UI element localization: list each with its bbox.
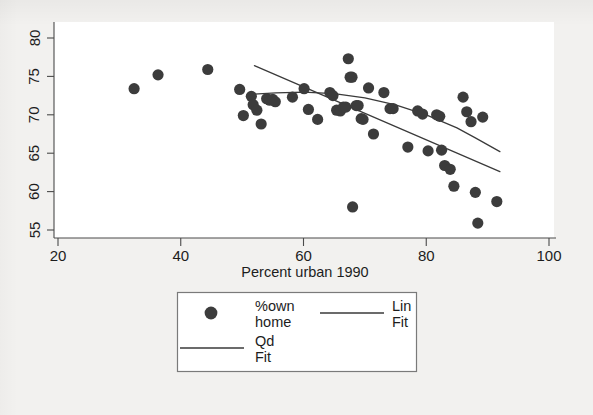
scatter-point	[129, 83, 140, 94]
scatter-point	[477, 112, 488, 123]
x-tick-label: 60	[295, 247, 312, 264]
scatter-point	[402, 141, 413, 152]
y-tick-label: 70	[26, 106, 43, 123]
scatter-point	[461, 106, 472, 117]
x-tick-label: 80	[418, 247, 435, 264]
scatter-point	[353, 100, 364, 111]
legend-label-lin-fit-line1: Lin	[392, 298, 411, 314]
y-tick-label: 65	[26, 145, 43, 162]
scatter-point	[270, 96, 281, 107]
legend-label-qd-fit-line1: Qd	[255, 333, 274, 349]
scatter-point	[457, 92, 468, 103]
scatter-point	[287, 92, 298, 103]
plot-area-background	[54, 22, 554, 238]
legend-label-qd-fit-line2: Fit	[255, 349, 271, 365]
scatter-point	[448, 181, 459, 192]
x-tick-label: 20	[50, 247, 67, 264]
y-tick-label: 60	[26, 183, 43, 200]
scatter-point	[340, 102, 351, 113]
legend-label-own-home-line1: %own	[255, 298, 295, 314]
scatter-point	[417, 108, 428, 119]
scatter-point	[378, 87, 389, 98]
scatter-point	[234, 84, 245, 95]
scatter-point	[238, 110, 249, 121]
scatter-point	[357, 114, 368, 125]
scatter-point	[422, 145, 433, 156]
x-tick-label: 40	[172, 247, 189, 264]
scatter-point	[368, 128, 379, 139]
y-tick-label: 80	[26, 30, 43, 47]
scatter-point	[363, 82, 374, 93]
x-axis-title: Percent urban 1990	[241, 264, 368, 280]
scatter-point	[491, 196, 502, 207]
scatter-point	[445, 164, 456, 175]
legend: %own home Lin Fit Qd Fit	[178, 293, 417, 372]
figure-page: 556065707580 20406080100 Percent urban 1…	[0, 0, 593, 415]
legend-box	[178, 293, 417, 372]
scatter-plot-figure: 556065707580 20406080100 Percent urban 1…	[0, 0, 593, 415]
legend-marker-dot-icon	[205, 307, 218, 320]
scatter-point	[346, 72, 357, 83]
scatter-point	[472, 217, 483, 228]
scatter-point	[465, 116, 476, 127]
x-tick-label: 100	[536, 247, 561, 264]
scatter-point	[343, 53, 354, 64]
scatter-point	[436, 145, 447, 156]
scatter-point	[256, 118, 267, 129]
scatter-point	[347, 201, 358, 212]
legend-label-lin-fit-line2: Fit	[392, 314, 408, 330]
scatter-point	[303, 104, 314, 115]
scatter-point	[251, 105, 262, 116]
y-tick-label: 55	[26, 222, 43, 239]
scatter-point	[202, 64, 213, 75]
legend-label-own-home-line2: home	[255, 314, 291, 330]
scatter-point	[327, 90, 338, 101]
scatter-point	[312, 114, 323, 125]
scatter-point	[299, 83, 310, 94]
scatter-point	[434, 111, 445, 122]
y-axis-ticks: 556065707580	[26, 30, 55, 239]
scatter-point	[470, 187, 481, 198]
scatter-point	[152, 69, 163, 80]
scatter-point	[388, 103, 399, 114]
y-tick-label: 75	[26, 68, 43, 85]
x-axis-ticks: 20406080100	[50, 238, 562, 264]
